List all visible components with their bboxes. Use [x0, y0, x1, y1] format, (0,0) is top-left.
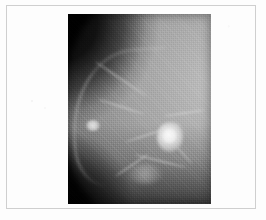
- figure-root: Grayscale mammographic projection; dark …: [0, 0, 266, 220]
- mammogram-scan: Grayscale mammographic projection; dark …: [68, 14, 211, 204]
- film-vignette: [68, 14, 211, 204]
